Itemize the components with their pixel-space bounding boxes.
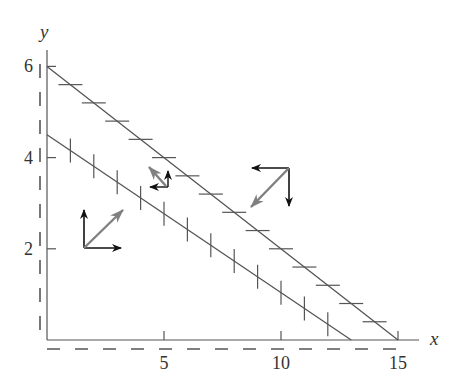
y-tick-label: 2 — [24, 239, 33, 259]
x-tick-label: 10 — [272, 353, 290, 373]
lower-nullcline-line — [47, 135, 351, 340]
x-tick-label: 5 — [160, 353, 169, 373]
vector-group-region-above-both — [251, 168, 289, 207]
vector-group-region-between — [149, 167, 168, 187]
y-axis-label: y — [38, 21, 49, 42]
upper-nullcline-line — [47, 66, 398, 340]
vector-group-region-below-both — [84, 210, 123, 248]
x-tick-marks: 51015 — [160, 331, 408, 373]
arrow-down-left-resultant-icon — [251, 168, 289, 207]
nullclines — [47, 66, 398, 340]
arrow-up-left-resultant-icon — [149, 167, 166, 186]
upper-nullcline — [47, 66, 398, 340]
axes: 51015 246 x y — [24, 21, 439, 373]
lower-nullcline — [47, 135, 351, 340]
phase-plane-figure: 51015 246 x y — [0, 0, 454, 382]
arrow-up-right-resultant-icon — [84, 210, 123, 248]
y-tick-label: 6 — [24, 56, 33, 76]
y-tick-label: 4 — [24, 148, 33, 168]
phase-plane-svg: 51015 246 x y — [0, 0, 454, 382]
x-tick-label: 15 — [389, 353, 407, 373]
x-axis-label: x — [429, 328, 439, 349]
